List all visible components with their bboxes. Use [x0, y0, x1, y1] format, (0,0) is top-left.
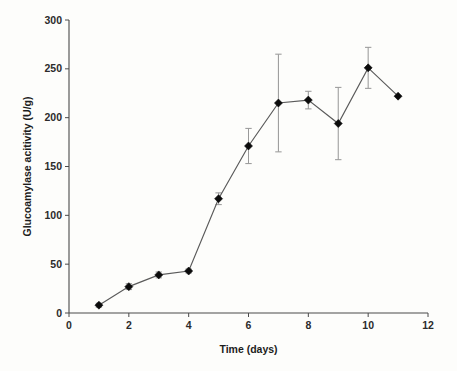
- y-tick-label-200: 200: [44, 111, 62, 123]
- data-point-day-7: [274, 99, 282, 107]
- axis-labels: 050100150200250300024681012Time (days)Gl…: [21, 14, 434, 355]
- y-tick-label-50: 50: [50, 258, 62, 270]
- x-tick-label-2: 2: [126, 319, 132, 331]
- series-polyline: [99, 68, 398, 305]
- chart-axes: [65, 20, 428, 317]
- y-axis-title: Glucoamylase acitivity (U/g): [21, 96, 33, 236]
- data-point-day-6: [245, 142, 253, 150]
- x-tick-label-0: 0: [66, 319, 72, 331]
- chart-figure: 050100150200250300024681012Time (days)Gl…: [0, 0, 457, 371]
- data-markers: [95, 64, 402, 309]
- x-tick-label-6: 6: [246, 319, 252, 331]
- x-tick-label-10: 10: [362, 319, 374, 331]
- data-point-day-4: [185, 267, 193, 275]
- y-tick-label-100: 100: [44, 209, 62, 221]
- y-tick-label-0: 0: [56, 307, 62, 319]
- x-axis-title: Time (days): [219, 343, 277, 355]
- x-tick-label-8: 8: [305, 319, 311, 331]
- x-tick-label-12: 12: [422, 319, 434, 331]
- y-tick-label-250: 250: [44, 62, 62, 74]
- data-point-day-1: [95, 301, 103, 309]
- error-bars: [96, 47, 372, 307]
- x-tick-label-4: 4: [186, 319, 192, 331]
- data-line: [99, 68, 398, 305]
- line-chart-plot: 050100150200250300024681012Time (days)Gl…: [0, 0, 457, 371]
- y-tick-label-300: 300: [44, 14, 62, 26]
- data-point-day-5: [215, 195, 223, 203]
- y-tick-label-150: 150: [44, 160, 62, 172]
